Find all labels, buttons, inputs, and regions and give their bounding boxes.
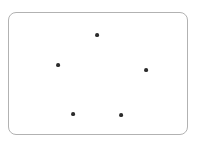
- screenshot-canvas: [0, 0, 199, 143]
- rounded-rectangle-panel: [8, 12, 188, 135]
